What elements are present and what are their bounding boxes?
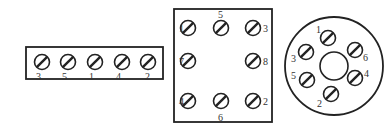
screw-terminal: 5 bbox=[291, 70, 315, 88]
screw-terminal: 1 bbox=[88, 55, 103, 83]
screw-terminal: 6 bbox=[348, 43, 369, 64]
screw-terminal: 4 bbox=[115, 55, 130, 83]
screw-terminal: 7 bbox=[179, 54, 196, 69]
terminal-label: 1 bbox=[89, 71, 94, 82]
screw-terminal: 3 bbox=[291, 45, 314, 65]
terminal-label: 2 bbox=[263, 96, 268, 107]
terminal-label: 4 bbox=[116, 71, 121, 82]
terminal-label: 3 bbox=[36, 71, 41, 82]
screw-terminal: 2 bbox=[141, 55, 156, 83]
wiring-diagram: 35142 15378462 163452 bbox=[0, 0, 391, 131]
terminal-label: 6 bbox=[363, 52, 368, 63]
screw-terminal: 4 bbox=[348, 68, 370, 86]
screw-terminal: 1 bbox=[179, 21, 196, 36]
center-hole bbox=[320, 52, 348, 80]
terminal-label: 5 bbox=[62, 71, 67, 82]
screw-terminal: 6 bbox=[214, 94, 229, 124]
terminal-label: 2 bbox=[317, 98, 322, 109]
terminal-label: 1 bbox=[179, 23, 184, 34]
screw-terminal: 3 bbox=[246, 21, 269, 36]
terminal-label: 1 bbox=[316, 24, 321, 35]
terminal-label: 3 bbox=[263, 23, 268, 34]
screw-terminal: 3 bbox=[35, 55, 50, 83]
screw-terminal: 2 bbox=[246, 94, 269, 109]
terminal-label: 3 bbox=[291, 53, 296, 64]
square-socket-8-pin: 15378462 bbox=[174, 9, 272, 123]
screw-terminal: 5 bbox=[214, 9, 229, 36]
terminal-label: 5 bbox=[291, 70, 296, 81]
round-socket-6-pin: 163452 bbox=[285, 17, 383, 115]
terminal-label: 5 bbox=[218, 9, 223, 20]
terminal-label: 4 bbox=[179, 96, 184, 107]
terminal-strip-5-pin: 35142 bbox=[26, 47, 163, 82]
screw-terminal: 5 bbox=[61, 55, 76, 83]
terminal-label: 4 bbox=[364, 68, 369, 79]
terminal-label: 6 bbox=[218, 112, 223, 123]
terminal-label: 7 bbox=[179, 56, 184, 67]
screw-terminal: 2 bbox=[317, 87, 339, 110]
screw-terminal: 8 bbox=[246, 54, 269, 69]
terminal-label: 2 bbox=[145, 71, 150, 82]
screw-terminal: 1 bbox=[316, 24, 336, 46]
screw-terminal: 4 bbox=[179, 94, 196, 109]
terminal-label: 8 bbox=[263, 56, 268, 67]
